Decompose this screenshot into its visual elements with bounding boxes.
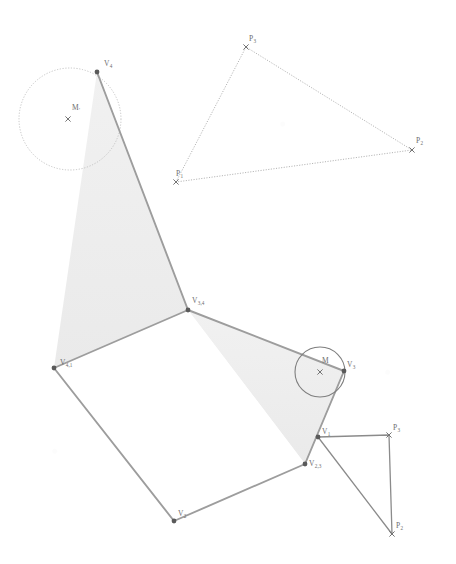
label-p2-top: P2 <box>416 136 424 146</box>
label-v23: V2,3 <box>309 459 322 469</box>
vertex-dot-v3 <box>342 369 347 374</box>
label-v34: V3,4 <box>192 296 205 306</box>
vertex-dot-v1 <box>316 435 321 440</box>
label-m: M <box>322 356 329 365</box>
bottom-right-triangle <box>318 435 392 534</box>
vertex-dot-v41 <box>52 366 57 371</box>
label-v4: V4 <box>104 59 113 69</box>
label-p3-top: P3 <box>249 34 257 44</box>
diagram-canvas: V4M'V3,4V4,1V3MV2,3V2V1P1P2P3P2P3 <box>0 0 456 564</box>
cross-marker-p1t <box>173 179 178 184</box>
geometry-figure: V4M'V3,4V4,1V3MV2,3V2V1P1P2P3P2P3 <box>0 0 456 564</box>
vertex-dot-v2 <box>172 519 177 524</box>
cross-marker-mprime <box>65 116 70 121</box>
label-v1: V1 <box>322 427 331 437</box>
vertex-dot-v23 <box>303 462 308 467</box>
label-p2-bot: P2 <box>396 521 404 531</box>
label-v3: V3 <box>347 360 356 370</box>
top-right-dotted-triangle <box>176 47 412 182</box>
vertex-dot-v4 <box>95 70 100 75</box>
label-m-prime: M' <box>72 103 80 113</box>
label-p3-bot: P3 <box>393 423 401 433</box>
cross-marker-p3t <box>243 44 248 49</box>
vertex-dot-v34 <box>186 308 191 313</box>
